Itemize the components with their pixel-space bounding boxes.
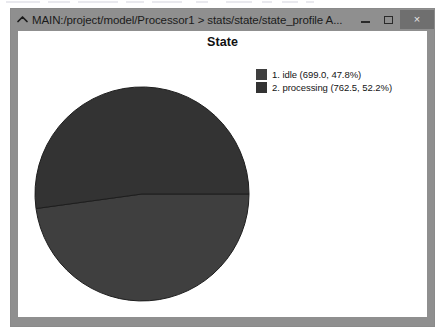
- chart-title: State: [18, 35, 427, 49]
- close-button[interactable]: ×: [400, 10, 434, 29]
- chart-window: MAIN:/project/model/Processor1 > stats/s…: [10, 8, 435, 327]
- maximize-button[interactable]: [377, 10, 400, 29]
- window-titlebar[interactable]: MAIN:/project/model/Processor1 > stats/s…: [11, 9, 434, 30]
- legend-item[interactable]: 1. idle (699.0, 47.8%): [256, 69, 421, 81]
- legend-item[interactable]: 2. processing (762.5, 52.2%): [256, 82, 421, 94]
- window-title: MAIN:/project/model/Processor1 > stats/s…: [32, 13, 354, 26]
- scan-artifacts: [0, 0, 445, 8]
- legend-swatch-processing: [256, 82, 267, 93]
- minimize-button[interactable]: [354, 10, 377, 29]
- pie-chart-svg: [32, 84, 252, 304]
- pie-chart: [32, 84, 252, 304]
- chart-legend: 1. idle (699.0, 47.8%) 2. processing (76…: [256, 69, 421, 95]
- pie-slice-idle[interactable]: [36, 194, 249, 301]
- legend-swatch-idle: [256, 69, 267, 80]
- chevron-up-icon[interactable]: [16, 13, 29, 26]
- chart-content-panel: State 1. idle (699.0, 47.8%) 2. processi…: [18, 31, 427, 317]
- legend-label-processing: 2. processing (762.5, 52.2%): [272, 82, 392, 93]
- window-controls: ×: [354, 9, 434, 30]
- pie-slice-processing[interactable]: [35, 87, 249, 209]
- legend-label-idle: 1. idle (699.0, 47.8%): [272, 69, 361, 80]
